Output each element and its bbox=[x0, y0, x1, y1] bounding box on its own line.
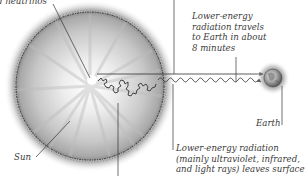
earth-globe bbox=[256, 61, 290, 95]
surface-radiation-label: Lower-energy radiation (mainly ultraviol… bbox=[176, 143, 305, 175]
travel-line-4: 8 minutes bbox=[192, 43, 266, 54]
neutrinos-label: d neutrinos bbox=[0, 0, 47, 7]
leaves-line-2: (mainly ultraviolet, infrared, bbox=[176, 154, 305, 165]
sun-label: Sun bbox=[14, 152, 31, 163]
leaves-line-3: and light rays) leaves surface bbox=[176, 164, 305, 175]
travel-time-label: Lower-energy radiation travels to Earth … bbox=[192, 11, 266, 53]
travel-line-3: to Earth in about bbox=[192, 32, 266, 43]
travel-line-1: Lower-energy bbox=[192, 11, 266, 22]
sun-earth-radiation-diagram: d neutrinos Lower-energy radiation trave… bbox=[0, 0, 306, 176]
sun-disc bbox=[4, 0, 176, 172]
leaves-line-1: Lower-energy radiation bbox=[176, 143, 305, 154]
travel-line-2: radiation travels bbox=[192, 22, 266, 33]
earth-label: Earth bbox=[256, 118, 281, 129]
